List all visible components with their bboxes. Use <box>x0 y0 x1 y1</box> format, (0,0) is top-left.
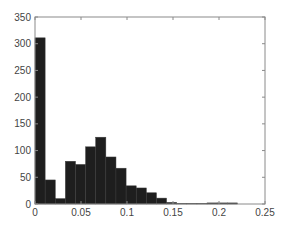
histogram-bar <box>96 137 106 204</box>
y-tick-label: 300 <box>14 38 31 49</box>
y-tick-label: 100 <box>14 145 31 156</box>
x-tick-labels: 00.050.10.150.20.25 <box>32 207 275 218</box>
y-tick-label: 350 <box>14 12 31 23</box>
histogram-bar <box>75 164 85 204</box>
histogram-bar <box>116 168 126 204</box>
histogram-bar <box>136 188 146 204</box>
histogram-bar <box>55 199 65 204</box>
histogram-bars <box>35 38 237 204</box>
y-tick-label: 200 <box>14 92 31 103</box>
histogram-bar <box>156 198 166 204</box>
histogram-bar <box>86 147 96 204</box>
histogram-bar <box>65 161 75 204</box>
y-tick-labels: 050100150200250300350 <box>14 12 31 210</box>
histogram-bar <box>106 157 116 204</box>
y-tick-label: 0 <box>25 199 31 210</box>
x-tick-label: 0.15 <box>163 207 183 218</box>
x-tick-label: 0 <box>32 207 38 218</box>
x-tick-label: 0.25 <box>255 207 275 218</box>
histogram-bar <box>126 186 136 204</box>
histogram-bar <box>146 193 156 204</box>
x-tick-label: 0.1 <box>120 207 134 218</box>
histogram-bar <box>45 180 55 204</box>
x-tick-label: 0.2 <box>212 207 226 218</box>
y-tick-label: 150 <box>14 118 31 129</box>
histogram-bar <box>35 38 45 204</box>
y-tick-label: 50 <box>20 172 32 183</box>
x-tick-label: 0.05 <box>71 207 91 218</box>
histogram-chart: 00.050.10.150.20.25 05010015020025030035… <box>0 0 288 228</box>
y-tick-label: 250 <box>14 65 31 76</box>
